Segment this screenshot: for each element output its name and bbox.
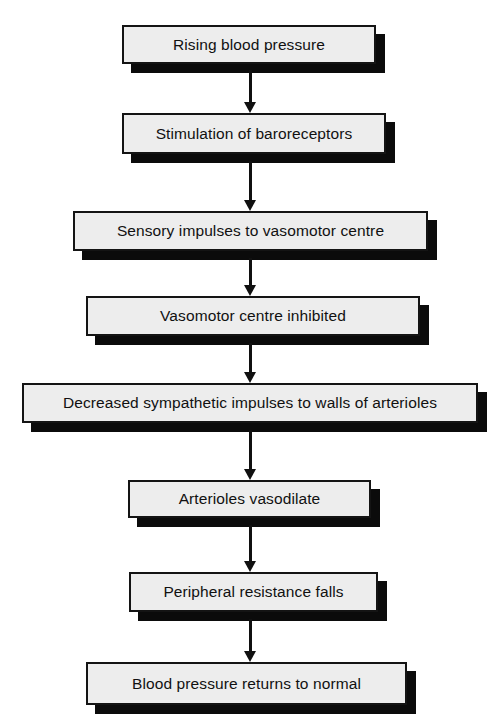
flow-arrow	[249, 161, 252, 211]
flow-arrow	[249, 430, 252, 480]
flowchart-node: Arterioles vasodilate	[128, 480, 371, 518]
flowchart-node: Blood pressure returns to normal	[86, 662, 407, 705]
arrow-head-icon	[244, 561, 256, 572]
flowchart-node: Sensory impulses to vasomotor centre	[73, 211, 428, 251]
flow-arrow	[249, 525, 252, 572]
flowchart-node-label: Blood pressure returns to normal	[132, 676, 361, 692]
arrow-stem	[249, 343, 252, 373]
arrow-head-icon	[244, 469, 256, 480]
flowchart-node: Decreased sympathetic impulses to walls …	[22, 383, 478, 423]
flowchart-node: Stimulation of baroreceptors	[122, 113, 386, 154]
arrow-head-icon	[244, 102, 256, 113]
flowchart-node-label: Decreased sympathetic impulses to walls …	[63, 395, 437, 411]
flowchart-node-label: Peripheral resistance falls	[163, 584, 343, 600]
flowchart-node: Peripheral resistance falls	[129, 572, 378, 612]
arrow-stem	[249, 70, 252, 103]
arrow-stem	[249, 430, 252, 470]
flow-arrow	[249, 619, 252, 662]
flowchart-node-label: Rising blood pressure	[173, 37, 325, 53]
flowchart-diagram: Rising blood pressureStimulation of baro…	[0, 0, 500, 728]
flowchart-node-label: Arterioles vasodilate	[179, 491, 321, 507]
flow-arrow	[249, 70, 252, 113]
flow-arrow	[249, 343, 252, 383]
arrow-stem	[249, 258, 252, 286]
arrow-head-icon	[244, 372, 256, 383]
flow-arrow	[249, 258, 252, 296]
arrow-stem	[249, 619, 252, 652]
arrow-stem	[249, 525, 252, 562]
flowchart-node-label: Vasomotor centre inhibited	[160, 308, 346, 324]
flowchart-node-label: Stimulation of baroreceptors	[156, 126, 353, 142]
arrow-head-icon	[244, 651, 256, 662]
arrow-head-icon	[244, 200, 256, 211]
flowchart-node: Vasomotor centre inhibited	[86, 296, 420, 336]
flowchart-node: Rising blood pressure	[122, 25, 376, 64]
flowchart-node-label: Sensory impulses to vasomotor centre	[117, 223, 384, 239]
arrow-stem	[249, 161, 252, 201]
arrow-head-icon	[244, 285, 256, 296]
